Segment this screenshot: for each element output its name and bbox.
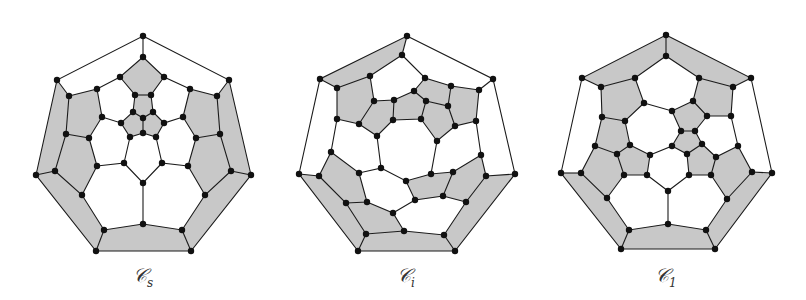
vertices [296,33,518,254]
edges [561,35,772,249]
graph-label-c1: 𝒞1 [655,264,677,290]
graph-label-cs: 𝒞s [133,264,153,290]
shaded-faces [299,36,515,251]
shaded-faces [561,35,772,249]
vertices [558,32,775,252]
graph-label-ci: 𝒞i [397,264,416,290]
graph-cs: 𝒞s [33,33,254,290]
edges [299,36,515,251]
graph-ci: 𝒞i [296,33,518,290]
graph-c1: 𝒞1 [558,32,775,290]
figure-canvas: 𝒞s [0,0,806,300]
